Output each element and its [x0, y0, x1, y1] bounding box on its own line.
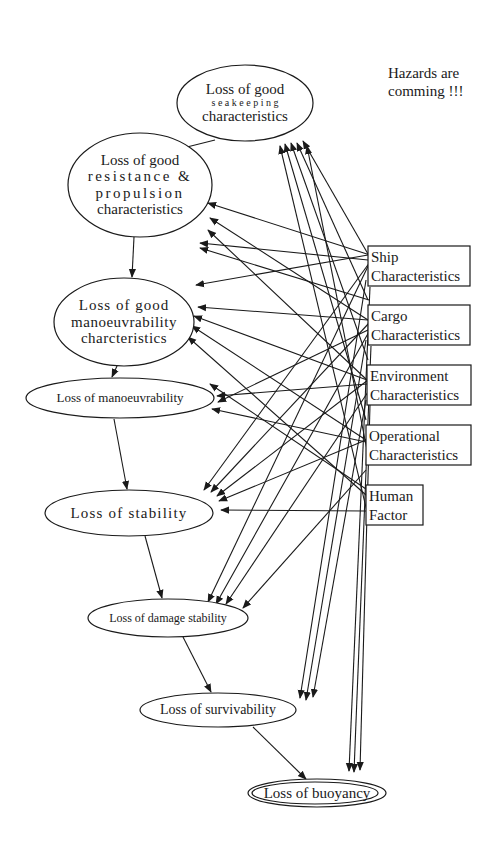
note-line: Hazards are [388, 65, 460, 81]
factor-node-human: HumanFactor [366, 485, 423, 525]
hazard-node-stability: Loss of stability [45, 490, 213, 536]
hazard-network-diagram: Loss of goods e a k e e p i n gcharacter… [0, 0, 501, 849]
hazard-node-survivability: Loss of survivability [140, 693, 296, 727]
factor-edge-arrow [217, 384, 367, 396]
hazard-label: manoeuvrability [71, 314, 177, 330]
factor-edge-arrow [306, 340, 366, 700]
factor-edge-arrow [200, 248, 369, 300]
chain-edge-arrow [132, 237, 134, 277]
factor-edge-arrow [216, 330, 370, 604]
hazards-note: Hazards arecomming !!! [388, 65, 463, 99]
hazard-label: charcteristics [81, 330, 167, 346]
factor-label: Characteristics [371, 327, 460, 343]
hazard-node-seakeeping: Loss of goods e a k e e p i n gcharacter… [177, 65, 313, 141]
hazard-label: resistance & [88, 168, 193, 184]
factor-edge-arrow [204, 262, 370, 490]
factor-edge-arrow [208, 203, 370, 255]
factor-label: Characteristics [369, 447, 458, 463]
chain-edge-arrow [183, 637, 211, 692]
factor-label: Factor [369, 507, 407, 523]
chain-edge-arrow [112, 366, 117, 377]
note-line: comming !!! [388, 83, 463, 99]
hazard-label: Loss of stability [70, 505, 187, 521]
factor-node-ship: ShipCharacteristics [368, 246, 470, 286]
hazard-label: Loss of good [206, 81, 285, 97]
factor-label: Ship [371, 249, 399, 265]
hazard-label: Loss of good [101, 152, 180, 168]
hazard-label: characteristics [97, 201, 183, 217]
factor-label: Cargo [371, 308, 407, 324]
hazard-node-manoeuvrability-chars: Loss of goodmanoeuvrabilitycharcteristic… [54, 278, 194, 366]
hazard-node-damage-stability: Loss of damage stability [88, 599, 248, 637]
factor-label: Characteristics [371, 268, 460, 284]
chain-edge-arrow [145, 536, 162, 598]
factor-label: Human [369, 488, 414, 504]
hazard-node-buoyancy: Loss of buoyancy [248, 779, 386, 807]
hazard-label: Loss of buoyancy [264, 785, 371, 801]
factor-edge-arrow [300, 280, 366, 698]
factor-edge-arrow [221, 510, 366, 511]
factor-edge-arrow [291, 143, 368, 360]
factor-edge-arrow [208, 262, 370, 602]
factor-edge-arrow [226, 392, 368, 604]
hazard-node-resistance: Loss of goodresistance &propulsioncharac… [68, 133, 212, 237]
hazard-label: Loss of good [79, 297, 169, 313]
factor-node-cargo: CargoCharacteristics [368, 305, 470, 345]
factor-node-operational: OperationalCharacteristics [366, 425, 471, 465]
hazard-node-manoeuvrability: Loss of manoeuvrability [26, 378, 214, 418]
hazard-label: Loss of damage stability [109, 611, 227, 625]
hazard-label: characteristics [202, 108, 288, 124]
factor-label: Operational [369, 428, 440, 444]
factor-node-environment: EnvironmentCharacteristics [367, 365, 471, 405]
factor-edge-arrow [307, 146, 369, 460]
factor-label: Environment [370, 368, 449, 384]
hazard-label: s e a k e e p i n g [212, 97, 279, 108]
hazard-label: Loss of manoeuvrability [56, 390, 184, 405]
hazard-label: Loss of survivability [160, 702, 276, 717]
factor-edge-arrow [280, 146, 369, 520]
hazard-label: propulsion [95, 185, 184, 201]
factor-edge-arrow [285, 144, 366, 420]
factor-edge-arrow [194, 316, 367, 380]
factor-label: Characteristics [370, 387, 459, 403]
chain-edge-arrow [253, 727, 306, 779]
chain-edge-arrow [114, 419, 127, 489]
factor-edge-arrow [208, 230, 367, 380]
factor-edge-arrow [196, 255, 368, 285]
hazard-nodes: Loss of goods e a k e e p i n gcharacter… [26, 65, 386, 807]
factor-edge-arrow [198, 307, 368, 320]
factor-nodes: ShipCharacteristicsCargoCharacteristicsE… [366, 246, 471, 525]
